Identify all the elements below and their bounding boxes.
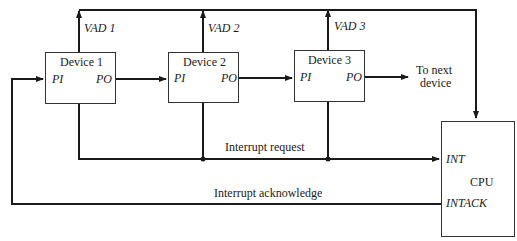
connection-lines [0, 0, 517, 241]
vad-3-label: VAD 3 [334, 20, 365, 33]
device-1-label: Device 1 [60, 56, 103, 69]
cpu-box: INT CPU INTACK [441, 121, 515, 237]
interrupt-request-label: Interrupt request [225, 141, 305, 154]
device-2-label: Device 2 [183, 56, 226, 69]
device-1-box: Device 1 PI PO [45, 52, 116, 104]
device-1-po: PO [96, 73, 112, 86]
device-2-pi: PI [174, 72, 185, 85]
device-2-box: Device 2 PI PO [168, 52, 239, 103]
cpu-label: CPU [470, 176, 493, 189]
interrupt-acknowledge-label: Interrupt acknowledge [214, 187, 322, 200]
device-3-label: Device 3 [308, 54, 351, 67]
device-3-po: PO [346, 71, 362, 84]
device-2-po: PO [221, 72, 237, 85]
cpu-int-label: INT [446, 153, 465, 166]
cpu-intack-label: INTACK [446, 197, 487, 210]
next-device-label-line2: device [420, 77, 451, 90]
vad-1-label: VAD 1 [84, 22, 115, 35]
device-3-box: Device 3 PI PO [294, 50, 365, 102]
vad-2-label: VAD 2 [208, 22, 239, 35]
device-3-pi: PI [300, 71, 311, 84]
device-1-pi: PI [52, 73, 63, 86]
